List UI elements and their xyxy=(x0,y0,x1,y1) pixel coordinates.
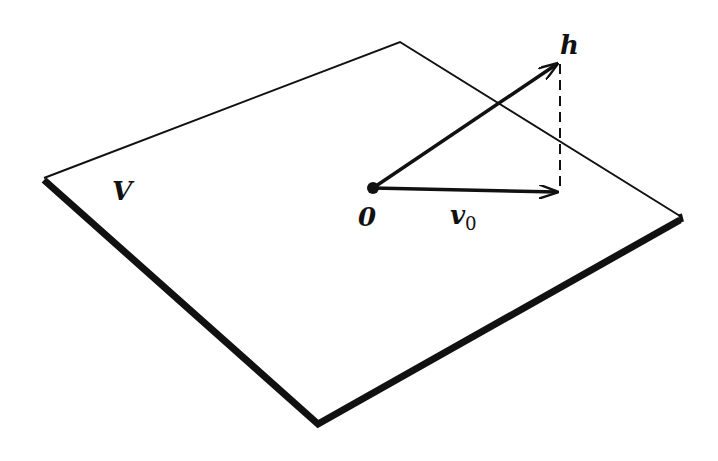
origin-point xyxy=(367,182,379,194)
vector-v0-name: v xyxy=(450,200,465,230)
vector-v0-label: v0 xyxy=(450,200,477,234)
vector-v0-subscript: 0 xyxy=(465,213,477,234)
plane-V xyxy=(44,42,682,424)
vector-h-label: h xyxy=(560,30,579,60)
origin-label: 0 xyxy=(358,202,376,232)
plane-label: V xyxy=(112,176,132,206)
